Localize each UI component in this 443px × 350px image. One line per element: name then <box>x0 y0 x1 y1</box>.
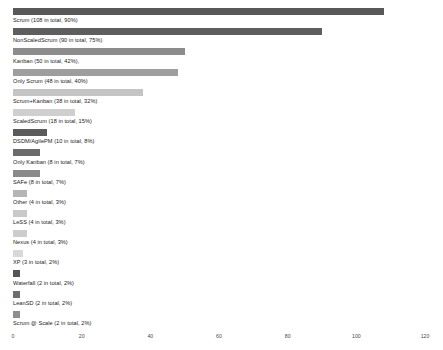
bar-label: Only Scrum (48 in total, 40%) <box>13 76 425 85</box>
bar-group: Other (4 in total, 3%) <box>13 190 425 206</box>
bar[interactable] <box>13 270 20 277</box>
bar[interactable] <box>13 311 20 318</box>
bar-label: LeSS (4 in total, 3%) <box>13 217 425 226</box>
x-axis: 020406080100120 <box>13 333 425 345</box>
bar-label: Scrum (108 in total, 90%) <box>13 15 425 24</box>
bar-label: Scrum @ Scale (2 in total, 2%) <box>13 318 425 327</box>
bar-group: XP (3 in total, 2%) <box>13 250 425 266</box>
bar-group: Waterfall (2 in total, 2%) <box>13 270 425 286</box>
bar[interactable] <box>13 230 27 237</box>
bar[interactable] <box>13 291 20 298</box>
bar-group: Only Kanban (8 in total, 7%) <box>13 149 425 165</box>
bar-label: NonScaledScrum (90 in total, 75%) <box>13 35 425 44</box>
bar-group: Nexus (4 in total, 3%) <box>13 230 425 246</box>
bar[interactable] <box>13 109 75 116</box>
bar-label: Kanban (50 in total, 42%), <box>13 55 425 64</box>
x-axis-tick: 0 <box>12 333 15 339</box>
bar-group: Only Scrum (48 in total, 40%) <box>13 69 425 85</box>
bar[interactable] <box>13 69 178 76</box>
bar-label: DSDM/AgilePM (10 in total, 8%) <box>13 136 425 145</box>
bar-chart: Scrum (108 in total, 90%)NonScaledScrum … <box>0 0 443 350</box>
bar-group: ScaledScrum (18 in total, 15%) <box>13 109 425 125</box>
bar[interactable] <box>13 149 40 156</box>
bar-group: Scrum (108 in total, 90%) <box>13 8 425 24</box>
bar-group: DSDM/AgilePM (10 in total, 8%) <box>13 129 425 145</box>
bar-label: Other (4 in total, 3%) <box>13 197 425 206</box>
x-axis-tick: 80 <box>285 333 291 339</box>
bar-label: LeanSD (2 in total, 2%) <box>13 298 425 307</box>
bar-group: Scrum @ Scale (2 in total, 2%) <box>13 311 425 327</box>
bar-group: LeanSD (2 in total, 2%) <box>13 291 425 307</box>
bar[interactable] <box>13 170 40 177</box>
x-axis-tick: 40 <box>147 333 153 339</box>
bar-group: NonScaledScrum (90 in total, 75%) <box>13 28 425 44</box>
plot-area: Scrum (108 in total, 90%)NonScaledScrum … <box>13 8 425 330</box>
bar[interactable] <box>13 190 27 197</box>
bar-label: Waterfall (2 in total, 2%) <box>13 277 425 286</box>
bar[interactable] <box>13 250 23 257</box>
bar-label: XP (3 in total, 2%) <box>13 257 425 266</box>
bar[interactable] <box>13 89 143 96</box>
bar-label: SAFe (8 in total, 7%) <box>13 177 425 186</box>
bar[interactable] <box>13 48 185 55</box>
bar-group: SAFe (8 in total, 7%) <box>13 170 425 186</box>
bar[interactable] <box>13 210 27 217</box>
bar-label: Only Kanban (8 in total, 7%) <box>13 156 425 165</box>
bar-label: Scrum+Kanban (38 in total, 32%) <box>13 96 425 105</box>
bar-group: Kanban (50 in total, 42%), <box>13 48 425 64</box>
x-axis-tick: 20 <box>79 333 85 339</box>
x-axis-tick: 60 <box>216 333 222 339</box>
bar-group: Scrum+Kanban (38 in total, 32%) <box>13 89 425 105</box>
bar[interactable] <box>13 129 47 136</box>
bar-label: Nexus (4 in total, 3%) <box>13 237 425 246</box>
bar-label: ScaledScrum (18 in total, 15%) <box>13 116 425 125</box>
x-axis-tick: 100 <box>352 333 361 339</box>
bar[interactable] <box>13 8 384 15</box>
bar-group: LeSS (4 in total, 3%) <box>13 210 425 226</box>
x-axis-tick: 120 <box>421 333 430 339</box>
bar[interactable] <box>13 28 322 35</box>
